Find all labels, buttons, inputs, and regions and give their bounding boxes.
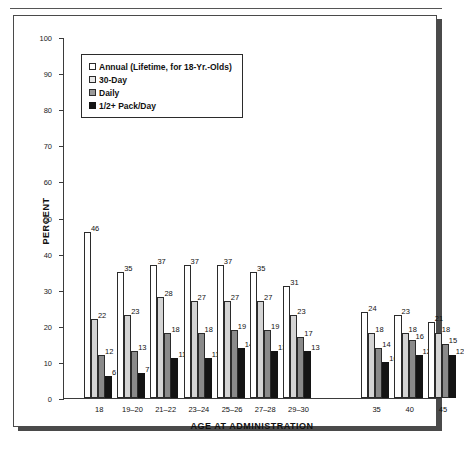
bar-value-label: 23 [402,307,410,316]
bar: 28 [157,297,164,398]
bar: 12 [98,355,105,398]
x-category-label: 35 [361,405,392,414]
bar-value-label: 23 [297,307,305,316]
bar: 18 [368,333,375,398]
bar-value-label: 37 [191,257,199,266]
bar-value-label: 15 [449,336,457,345]
x-axis-line [63,398,441,399]
bar-value-label: 46 [91,224,99,233]
bar-value-label: 37 [224,257,232,266]
legend-item: 1/2+ Pack/Day [89,99,232,112]
bar: 27 [257,301,264,398]
y-tick-label: 0 [48,395,52,404]
y-tick-label: 90 [44,70,52,79]
x-axis-title: AGE AT ADMINISTRATION [63,421,441,431]
bar: 19 [231,330,238,398]
legend-label-halfpack: 1/2+ Pack/Day [99,101,156,111]
bar-value-label: 17 [304,329,312,338]
bar: 14 [238,348,245,398]
bar: 46 [84,232,91,398]
bar: 18 [435,333,442,398]
bar: 16 [409,340,416,398]
bar-group: 2118151245 [428,38,459,398]
x-category-label: 25–26 [217,405,248,414]
bar: 35 [117,272,124,398]
bar-value-label: 13 [311,343,319,352]
bar-value-label: 14 [382,340,390,349]
bar: 17 [297,337,304,398]
bar: 13 [131,351,138,398]
bar-value-label: 24 [368,304,376,313]
x-category-label: 40 [394,405,425,414]
x-category-label: 23–24 [184,405,215,414]
y-tick-label: 40 [44,250,52,259]
bar: 19 [264,330,271,398]
legend-swatch-halfpack-icon [89,102,96,109]
x-category-label: 18 [84,405,115,414]
bar: 6 [105,376,112,398]
bar-value-label: 27 [231,293,239,302]
bar-value-label: 27 [198,293,206,302]
bar-value-label: 22 [98,311,106,320]
legend-label-annual: Annual (Lifetime, for 18-Yr.-Olds) [99,62,232,72]
x-category-label: 29–30 [283,405,314,414]
bar-value-label: 6 [112,368,116,377]
bar: 7 [138,373,145,398]
bar: 23 [394,315,401,398]
bar: 27 [224,301,231,398]
bar-value-label: 27 [264,293,272,302]
bar-value-label: 18 [442,325,450,334]
y-tick-label: 20 [44,322,52,331]
bar: 13 [304,351,311,398]
bar: 18 [402,333,409,398]
bar-group: 2318161240 [394,38,425,398]
bar: 12 [416,355,423,398]
bar: 10 [382,362,389,398]
legend-label-daily: Daily [99,88,119,98]
bar-value-label: 19 [271,322,279,331]
y-tick-label: 100 [39,34,52,43]
bar-value-label: 37 [157,257,165,266]
bar-value-label: 18 [171,325,179,334]
bar: 37 [184,265,191,398]
x-category-label: 21–22 [150,405,181,414]
top-divider-rule [10,8,442,9]
bar: 24 [361,312,368,398]
bar: 31 [283,286,290,398]
bar-value-label: 21 [435,314,443,323]
bar-value-label: 28 [164,289,172,298]
legend-item: Annual (Lifetime, for 18-Yr.-Olds) [89,60,232,73]
bar: 23 [124,315,131,398]
bar: 35 [250,272,257,398]
bar-value-label: 19 [238,322,246,331]
bar-value-label: 7 [145,365,149,374]
y-tick-label: 80 [44,106,52,115]
bar: 15 [442,344,449,398]
x-category-label: 27–28 [250,405,281,414]
bar: 13 [271,351,278,398]
bar: 37 [217,265,224,398]
bar-value-label: 23 [131,307,139,316]
bar-value-label: 12 [456,347,464,356]
y-tick-label: 30 [44,286,52,295]
bar-value-label: 35 [257,264,265,273]
legend-item: Daily [89,86,232,99]
legend-label-30day: 30-Day [99,75,127,85]
bar: 37 [150,265,157,398]
legend-swatch-30day-icon [89,76,96,83]
bar: 18 [198,333,205,398]
bar: 12 [449,355,456,398]
bar: 21 [428,322,435,398]
bar-group: 2418141035 [361,38,392,398]
chart-legend: Annual (Lifetime, for 18-Yr.-Olds) 30-Da… [81,54,243,118]
bar-value-label: 35 [124,264,132,273]
bar: 14 [375,348,382,398]
bar: 22 [91,319,98,398]
bar-value-label: 16 [416,332,424,341]
y-tick: 0 [59,399,64,400]
bar-value-label: 18 [375,325,383,334]
x-category-label: 45 [428,405,459,414]
y-tick-label: 50 [44,214,52,223]
bar-value-label: 18 [205,325,213,334]
